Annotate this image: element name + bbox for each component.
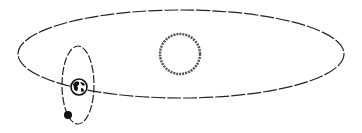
sun-icon bbox=[160, 34, 200, 74]
earth-icon bbox=[71, 79, 87, 95]
moon-icon bbox=[64, 111, 72, 119]
orbit-diagram bbox=[0, 0, 362, 133]
